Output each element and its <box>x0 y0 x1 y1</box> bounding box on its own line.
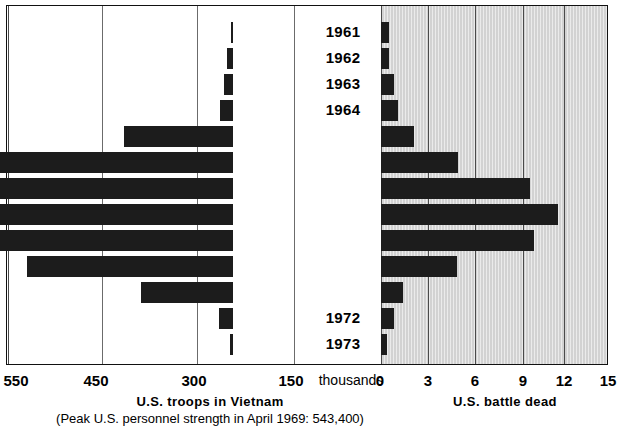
battle-dead-bar <box>381 256 457 277</box>
battle-dead-bar <box>381 178 530 199</box>
year-label: 1964 <box>311 97 375 123</box>
bar-rows: 1961196219631964196519661967196819691970… <box>7 6 607 364</box>
battle-dead-bar <box>381 152 458 173</box>
bar-row: 1972 <box>7 305 607 331</box>
troops-bar <box>141 282 233 303</box>
battle-dead-bar <box>381 282 403 303</box>
battle-dead-bar <box>381 230 534 251</box>
troops-bar <box>227 48 233 69</box>
tick-troops-300: 300 <box>164 372 224 389</box>
year-label: 1966 <box>311 149 375 175</box>
battle-dead-bar <box>381 204 558 225</box>
troops-bar <box>231 22 233 43</box>
battle-dead-bar <box>381 100 398 121</box>
year-label: 1969 <box>311 227 375 253</box>
troops-bar <box>219 308 233 329</box>
bar-row: 1962 <box>7 45 607 71</box>
tick-troops-550: 550 <box>0 372 46 389</box>
troops-bar <box>224 74 233 95</box>
troops-bar <box>0 204 233 225</box>
troops-bar <box>0 152 233 173</box>
battle-dead-bar <box>381 74 394 95</box>
plot-area: 1961196219631964196519661967196819691970… <box>6 5 608 365</box>
tick-dead-15: 15 <box>578 372 621 389</box>
troops-bar <box>0 230 233 251</box>
bar-row: 1966 <box>7 149 607 175</box>
right-axis-title: U.S. battle dead <box>400 394 610 409</box>
battle-dead-bar <box>381 48 389 69</box>
year-label: 1972 <box>311 305 375 331</box>
year-label: 1962 <box>311 45 375 71</box>
battle-dead-bar <box>381 334 387 355</box>
year-label: 1967 <box>311 175 375 201</box>
year-label: 1965 <box>311 123 375 149</box>
troops-bar <box>124 126 233 147</box>
bar-row: 1969 <box>7 227 607 253</box>
year-label: 1973 <box>311 331 375 357</box>
bar-row: 1971 <box>7 279 607 305</box>
bar-row: 1961 <box>7 19 607 45</box>
left-axis-title: U.S. troops in Vietnam <box>0 394 420 409</box>
battle-dead-bar <box>381 308 394 329</box>
year-label: 1963 <box>311 71 375 97</box>
tick-troops-450: 450 <box>66 372 126 389</box>
bar-row: 1963 <box>7 71 607 97</box>
left-axis-subtitle: (Peak U.S. personnel strength in April 1… <box>0 411 420 426</box>
year-label: 1971 <box>311 279 375 305</box>
bar-row: 1968 <box>7 201 607 227</box>
battle-dead-bar <box>381 22 389 43</box>
bar-row: 1967 <box>7 175 607 201</box>
troops-bar <box>27 256 233 277</box>
bar-row: 1973 <box>7 331 607 357</box>
troops-bar <box>230 334 233 355</box>
bar-row: 1964 <box>7 97 607 123</box>
bar-row: 1965 <box>7 123 607 149</box>
bar-row: 1970 <box>7 253 607 279</box>
battle-dead-bar <box>381 126 414 147</box>
troops-bar <box>0 178 233 199</box>
year-label: 1961 <box>311 19 375 45</box>
troops-bar <box>220 100 233 121</box>
year-label: 1970 <box>311 253 375 279</box>
year-label: 1968 <box>311 201 375 227</box>
